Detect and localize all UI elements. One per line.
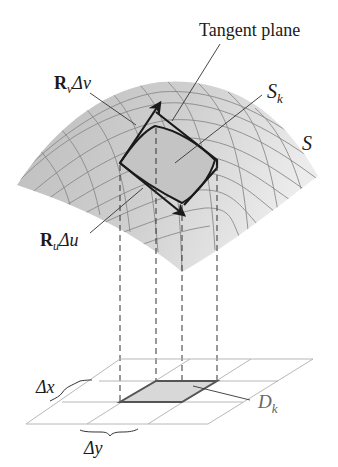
- label-sk: Sk: [267, 80, 283, 106]
- label-delta-y: Δy: [83, 438, 103, 458]
- surface-area-diagram: Tangent plane RvΔv Sk S RuΔu Δx Δy Dk: [0, 0, 338, 467]
- label-dk: Dk: [257, 391, 278, 416]
- label-tangent-plane: Tangent plane: [199, 20, 300, 40]
- label-delta-x: Δx: [35, 377, 55, 397]
- label-ru-du: RuΔu: [40, 230, 79, 253]
- delta-y-brace: [80, 429, 138, 436]
- label-rv-dv: RvΔv: [54, 73, 91, 96]
- leader-dk: [193, 386, 250, 400]
- region-dk: [120, 381, 217, 402]
- label-s: S: [302, 132, 312, 154]
